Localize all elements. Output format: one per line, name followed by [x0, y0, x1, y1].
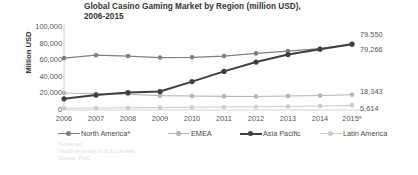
data-point-marker: [126, 54, 131, 59]
data-point-marker: [254, 51, 259, 56]
series-end-label: 79,550: [360, 30, 383, 39]
data-point-marker: [61, 96, 66, 101]
data-point-marker: [62, 106, 67, 111]
chart-legend: North America*EMEAAsia PacificLatin Amer…: [58, 127, 408, 139]
data-point-marker: [349, 42, 354, 47]
data-point-marker: [158, 105, 163, 110]
legend-label: EMEA: [191, 129, 212, 138]
data-point-marker: [93, 92, 98, 97]
legend-label: North America*: [81, 129, 130, 138]
data-point-marker: [94, 53, 99, 58]
x-axis-tick-label: 2008: [111, 114, 145, 123]
data-point-marker: [254, 94, 259, 99]
data-point-marker: [222, 105, 227, 110]
series-latin-america: [62, 103, 355, 111]
data-point-marker: [157, 89, 162, 94]
legend-swatch-icon: [240, 129, 262, 138]
data-point-marker: [253, 59, 258, 64]
axis-lines: [64, 24, 362, 110]
data-point-marker: [158, 55, 163, 60]
data-point-marker: [62, 56, 67, 61]
data-point-marker: [221, 69, 226, 74]
legend-item[interactable]: North America*: [58, 127, 130, 139]
footnote-line: *Forecast: [58, 141, 134, 148]
data-point-marker: [350, 92, 355, 97]
x-axis-tick-label: 2011: [207, 114, 241, 123]
data-point-marker: [254, 104, 259, 109]
footnote-line: Source: PwC: [58, 155, 134, 162]
series-line: [64, 44, 352, 99]
data-point-marker: [318, 93, 323, 98]
data-point-marker: [190, 94, 195, 99]
data-point-marker: [285, 52, 290, 57]
series-end-label: 79,266: [360, 45, 383, 54]
data-point-marker: [125, 90, 130, 95]
series-asia-pacific: [61, 42, 354, 102]
x-axis-tick-label: 2010: [175, 114, 209, 123]
data-point-marker: [222, 94, 227, 99]
series-line: [64, 105, 352, 108]
x-axis-tick-label: 2013: [271, 114, 305, 123]
data-point-marker: [126, 105, 131, 110]
data-point-marker: [94, 106, 99, 111]
data-point-marker: [222, 54, 227, 59]
legend-item[interactable]: Asia Pacific: [240, 127, 301, 139]
x-axis-tick-label: 2009: [143, 114, 177, 123]
data-point-marker: [350, 103, 355, 108]
x-axis-tick-label: 2006: [47, 114, 81, 123]
data-point-marker: [318, 104, 323, 109]
legend-label: Asia Pacific: [263, 129, 301, 138]
series-end-label: 5,614: [360, 104, 379, 113]
x-axis-tick-label: 2015*: [335, 114, 369, 123]
data-point-marker: [190, 55, 195, 60]
data-point-marker: [317, 47, 322, 52]
data-point-marker: [62, 91, 67, 96]
x-axis-tick-label: 2012: [239, 114, 273, 123]
data-point-marker: [190, 105, 195, 110]
footnote-line: *North America: U.S & Canada: [58, 148, 134, 155]
x-axis-tick-label: 2007: [79, 114, 113, 123]
series-end-label: 18,343: [360, 87, 383, 96]
legend-item[interactable]: Latin America: [320, 127, 387, 139]
legend-swatch-icon: [58, 129, 80, 138]
chart-figure: Global Casino Gaming Market by Region (m…: [0, 0, 418, 175]
data-point-marker: [286, 94, 291, 99]
legend-swatch-icon: [320, 129, 342, 138]
data-point-marker: [189, 79, 194, 84]
chart-footnotes: *Forecast*North America: U.S & CanadaSou…: [58, 141, 134, 162]
legend-item[interactable]: EMEA: [168, 127, 212, 139]
data-point-marker: [286, 104, 291, 109]
legend-label: Latin America: [343, 129, 387, 138]
legend-swatch-icon: [168, 129, 190, 138]
x-axis-tick-label: 2014: [303, 114, 337, 123]
